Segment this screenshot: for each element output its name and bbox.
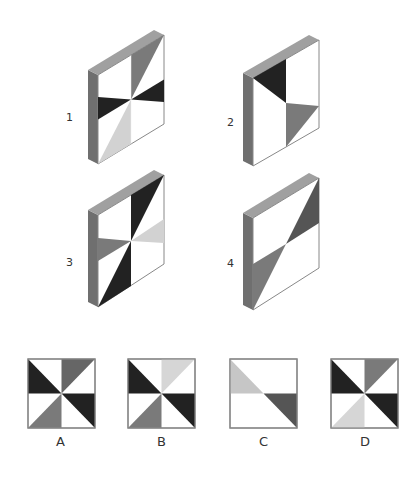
option-c[interactable]: C (230, 359, 297, 449)
panel-2: 2 (227, 35, 319, 166)
option-d[interactable]: D (331, 359, 398, 449)
panel-1-side-edge (88, 70, 98, 164)
option-d-label: D (360, 434, 370, 449)
panel-4-label: 4 (227, 257, 234, 270)
panel-2-label: 2 (227, 116, 234, 129)
option-b-label: B (157, 434, 166, 449)
panel-1-label: 1 (66, 111, 73, 124)
panel-3: 3 (66, 170, 164, 307)
puzzle-canvas: 1 2 3 4 (0, 0, 418, 479)
panel-1: 1 (66, 30, 164, 164)
panel-4-side-edge (243, 213, 253, 310)
option-c-label: C (259, 434, 268, 449)
option-a[interactable]: A (28, 359, 95, 449)
option-a-label: A (56, 434, 65, 449)
panel-4: 4 (227, 173, 319, 310)
panel-3-label: 3 (66, 256, 73, 269)
option-b[interactable]: B (128, 359, 195, 449)
panel-2-side-edge (243, 73, 253, 166)
panel-3-side-edge (88, 210, 98, 307)
